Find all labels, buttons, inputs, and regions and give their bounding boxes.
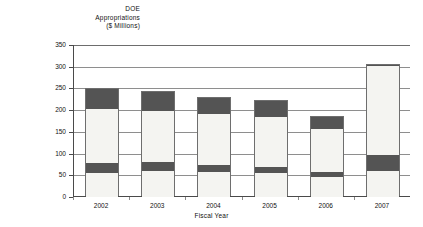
chart-container: DOE Appropriations ($ Millions) 05010015… xyxy=(0,0,423,227)
bar-2006 xyxy=(310,116,344,196)
y-tick-label-300: 300 xyxy=(40,63,66,70)
bar-segment-2002-segment-2 xyxy=(86,163,118,173)
bar-segment-2005-segment-4 xyxy=(255,101,287,117)
y-axis-title: DOE Appropriations ($ Millions) xyxy=(18,5,140,31)
gridline-300 xyxy=(74,67,410,68)
bar-segment-2006-segment-4 xyxy=(311,117,343,129)
bar-segment-2007-segment-4 xyxy=(367,65,399,66)
bar-2004 xyxy=(197,97,231,196)
y-axis-title-line-2: Appropriations xyxy=(18,14,140,23)
x-tick-label-2006: 2006 xyxy=(306,202,346,209)
x-tick-label-2002: 2002 xyxy=(81,202,121,209)
bar-2002 xyxy=(85,88,119,196)
y-axis-title-line-3: ($ Millions) xyxy=(18,22,140,31)
x-tick-mark-1 xyxy=(129,197,130,200)
bar-segment-2004-segment-4 xyxy=(198,98,230,115)
bar-segment-2007-segment-3 xyxy=(367,66,399,155)
x-axis-title: Fiscal Year xyxy=(0,212,423,219)
x-tick-mark-4 xyxy=(298,197,299,200)
x-tick-mark-3 xyxy=(242,197,243,200)
x-tick-mark-0 xyxy=(73,197,74,200)
gridline-150 xyxy=(74,132,410,133)
bar-segment-2005-segment-3 xyxy=(255,117,287,167)
bar-segment-2006-segment-1 xyxy=(311,177,343,197)
bar-segment-2002-segment-4 xyxy=(86,89,118,109)
x-tick-mark-5 xyxy=(354,197,355,200)
y-tick-label-50: 50 xyxy=(40,171,66,178)
y-axis-title-line-1: DOE xyxy=(18,5,140,14)
x-tick-mark-2 xyxy=(185,197,186,200)
gridline-200 xyxy=(74,110,410,111)
y-tick-label-150: 150 xyxy=(40,128,66,135)
plot-area xyxy=(73,45,410,197)
bar-segment-2006-segment-2 xyxy=(311,172,343,177)
gridline-100 xyxy=(74,154,410,155)
bar-2003 xyxy=(141,91,175,196)
bar-segment-2005-segment-1 xyxy=(255,173,287,197)
bar-segment-2004-segment-3 xyxy=(198,114,230,164)
x-tick-label-2003: 2003 xyxy=(137,202,177,209)
bar-segment-2004-segment-2 xyxy=(198,165,230,172)
bar-segment-2005-segment-2 xyxy=(255,167,287,173)
bar-segment-2003-segment-1 xyxy=(142,171,174,197)
bar-segment-2007-segment-1 xyxy=(367,171,399,197)
gridline-350 xyxy=(74,45,410,46)
y-tick-label-200: 200 xyxy=(40,106,66,113)
x-tick-label-2007: 2007 xyxy=(362,202,402,209)
bar-segment-2002-segment-3 xyxy=(86,109,118,163)
bar-segment-2003-segment-3 xyxy=(142,111,174,161)
y-tick-label-0: 0 xyxy=(40,193,66,200)
bar-2005 xyxy=(254,100,288,196)
bar-2007 xyxy=(366,64,400,196)
bar-segment-2003-segment-4 xyxy=(142,92,174,112)
gridline-50 xyxy=(74,175,410,176)
bar-segment-2003-segment-2 xyxy=(142,162,174,171)
gridline-250 xyxy=(74,88,410,89)
x-tick-label-2004: 2004 xyxy=(193,202,233,209)
bar-segment-2006-segment-3 xyxy=(311,129,343,172)
bar-segment-2002-segment-1 xyxy=(86,173,118,197)
y-tick-label-100: 100 xyxy=(40,150,66,157)
bar-segment-2004-segment-1 xyxy=(198,172,230,197)
y-tick-label-250: 250 xyxy=(40,84,66,91)
bar-segment-2007-segment-2 xyxy=(367,155,399,171)
x-tick-label-2005: 2005 xyxy=(250,202,290,209)
y-tick-label-350: 350 xyxy=(40,41,66,48)
